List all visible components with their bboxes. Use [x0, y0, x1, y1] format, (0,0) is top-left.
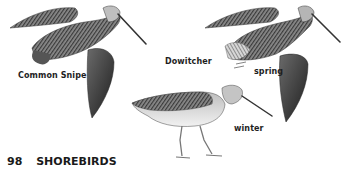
dowitcher-winter-illustration: [132, 85, 272, 158]
dowitcher-spring-illustration: [205, 6, 340, 122]
bird-illustrations: [0, 0, 350, 171]
label-spring: spring: [254, 67, 283, 76]
common-snipe-illustration: [10, 6, 146, 118]
page-footer: 98 SHOREBIRDS: [7, 155, 117, 168]
label-dowitcher: Dowitcher: [165, 57, 212, 66]
label-common-snipe: Common Snipe: [18, 71, 87, 80]
section-title: SHOREBIRDS: [36, 155, 116, 168]
label-winter: winter: [234, 124, 264, 133]
page-number: 98: [7, 155, 22, 168]
